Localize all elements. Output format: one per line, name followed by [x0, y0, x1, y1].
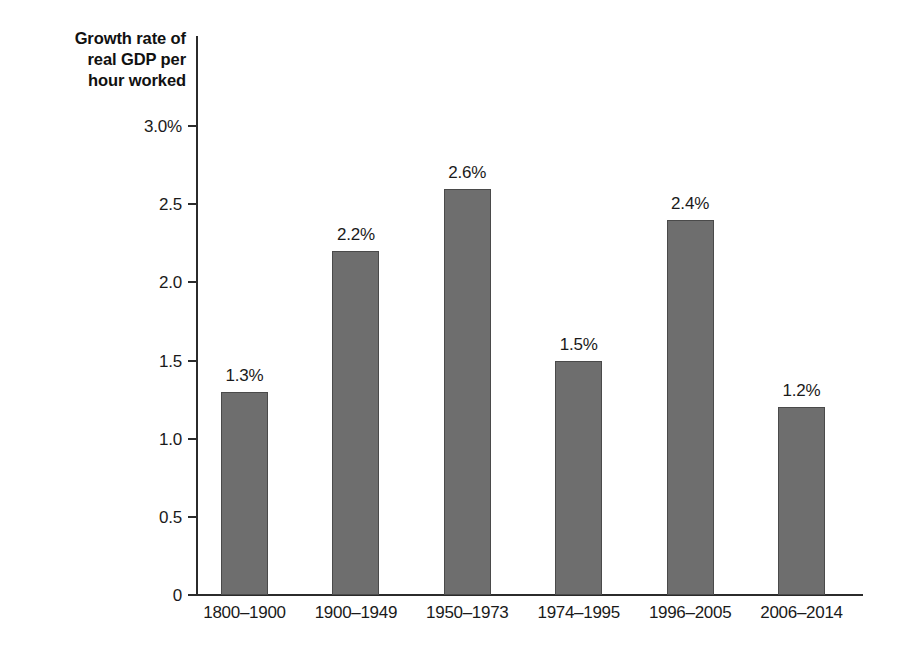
- bar[interactable]: [667, 220, 714, 595]
- bar-value-label: 2.6%: [427, 164, 507, 181]
- bar[interactable]: [332, 251, 379, 595]
- bar[interactable]: [555, 361, 602, 596]
- x-axis-tick-label: 1900–1949: [300, 603, 412, 622]
- bar[interactable]: [444, 189, 491, 595]
- bar-value-label: 1.2%: [762, 382, 842, 399]
- bar-chart-figure: Growth rate of real GDP per hour worked …: [0, 0, 910, 653]
- bar-value-label: 1.5%: [539, 336, 619, 353]
- bar-value-label: 2.4%: [650, 195, 730, 212]
- x-axis-tick-label: 1974–1995: [523, 603, 635, 622]
- x-axis-tick-label: 1800–1900: [189, 603, 301, 622]
- x-axis-tick-label: 1950–1973: [411, 603, 523, 622]
- x-axis-tick-label: 1996–2005: [634, 603, 746, 622]
- bar[interactable]: [778, 407, 825, 595]
- bar[interactable]: [221, 392, 268, 595]
- bar-value-label: 2.2%: [316, 226, 396, 243]
- x-axis-tick-label: 2006–2014: [746, 603, 858, 622]
- plot-area: 1.3%1800–19002.2%1900–19492.6%1950–19731…: [0, 0, 910, 653]
- bar-value-label: 1.3%: [205, 367, 285, 384]
